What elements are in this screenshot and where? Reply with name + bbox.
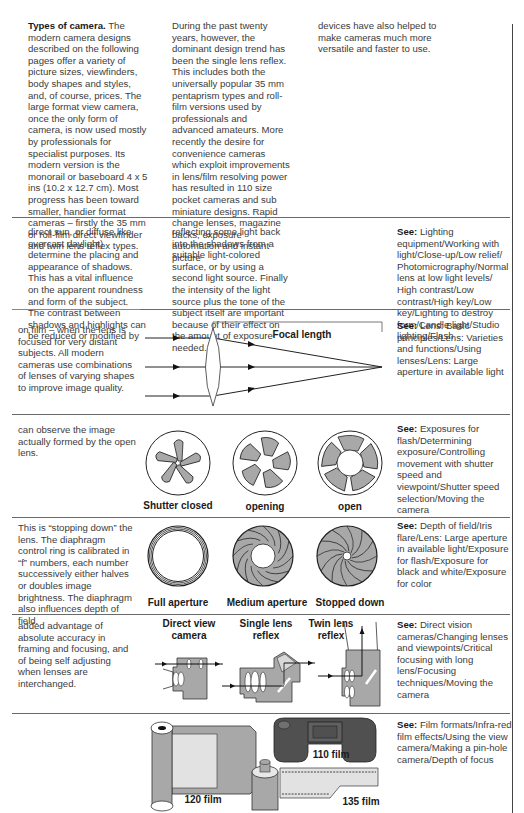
divider xyxy=(12,217,510,218)
caption-open: open xyxy=(317,501,383,512)
caption-full-aperture: Full aperture xyxy=(140,597,216,608)
caption-110-film: 110 film xyxy=(306,749,356,760)
single-lens-reflex-icon xyxy=(222,650,317,708)
caption-120-film: 120 film xyxy=(178,794,228,805)
section-heading: Types of camera. xyxy=(28,20,106,31)
divider xyxy=(12,517,510,518)
caption-stopped-down: Stopped down xyxy=(310,597,390,608)
medium-aperture-icon xyxy=(232,525,294,587)
caption-135-film: 135 film xyxy=(336,796,386,807)
lens-text: on film – when the lens is focused for v… xyxy=(18,324,136,394)
see-also-lens: See: Lens: Basic principles/Lens: Variet… xyxy=(397,320,512,378)
divider xyxy=(140,309,510,310)
caption-medium-aperture: Medium aperture xyxy=(222,597,312,608)
focal-length-label: Focal length xyxy=(262,329,342,340)
intro-col-3: devices have also helped to make cameras… xyxy=(318,20,440,55)
see-also-film: See: Film formats/Infra-red film effects… xyxy=(397,719,512,765)
caption-direct-view: Direct view camera xyxy=(158,618,220,642)
full-aperture-icon xyxy=(147,525,209,587)
divider xyxy=(12,309,140,310)
divider xyxy=(12,614,510,615)
divider xyxy=(12,414,510,415)
caption-shutter-closed: Shutter closed xyxy=(140,500,216,511)
shutter-open-icon xyxy=(317,430,383,496)
see-also-shutter: See: Exposures for flash/Determining exp… xyxy=(397,423,512,516)
caption-single-lens-reflex: Single lens reflex xyxy=(238,618,294,642)
twin-lens-reflex-icon xyxy=(318,620,388,708)
right-border xyxy=(512,24,513,813)
direct-view-camera-icon xyxy=(155,655,225,705)
shutter-closed-icon xyxy=(145,430,211,496)
shutter-opening-icon xyxy=(232,430,298,496)
shutter-text: can observe the image actually formed by… xyxy=(18,424,136,459)
see-also-viewing: See: Direct vision cameras/Changing lens… xyxy=(397,619,512,700)
divider xyxy=(12,713,510,714)
caption-opening: opening xyxy=(232,501,298,512)
see-also-aperture: See: Depth of field/Iris flare/Lens: Lar… xyxy=(397,520,512,590)
aperture-text: This is “stopping down” the lens. The di… xyxy=(18,522,136,626)
viewing-text: added advantage of absolute accuracy in … xyxy=(18,620,136,690)
stopped-down-icon xyxy=(316,525,378,587)
